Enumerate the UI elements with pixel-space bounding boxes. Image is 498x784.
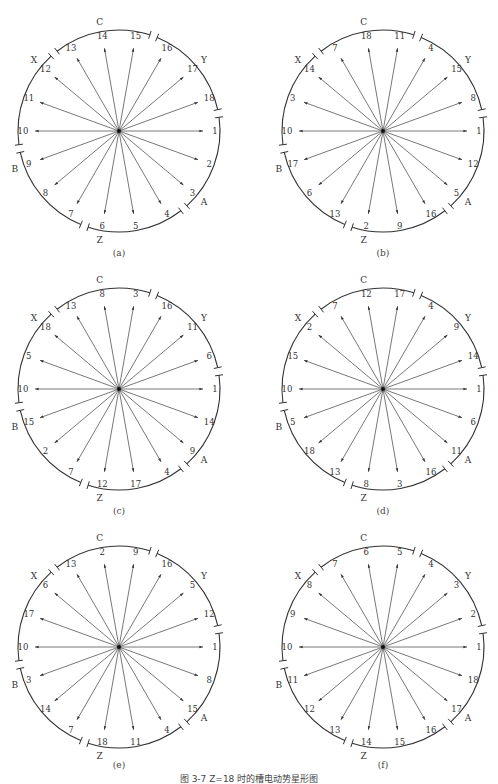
phase-label-c: C: [360, 17, 367, 27]
phasor-arrow: [40, 360, 119, 389]
phase-label-x: X: [31, 55, 38, 65]
phasor-arrow: [55, 131, 119, 185]
slot-number: 11: [394, 31, 405, 41]
slot-number: 8: [100, 289, 105, 299]
slot-number: 13: [66, 559, 77, 569]
belt-break-mark: [178, 208, 183, 214]
slot-number: 1: [476, 642, 481, 652]
slot-number: 10: [18, 642, 29, 652]
phasor-arrow: [55, 335, 119, 389]
slot-number: 17: [130, 479, 141, 489]
phasor-arrow: [319, 647, 383, 701]
slot-number: 13: [66, 301, 77, 311]
slot-number: 2: [307, 322, 312, 332]
slot-number: 8: [470, 93, 475, 103]
slot-number: 15: [451, 64, 462, 74]
phasor-arrow: [319, 593, 383, 647]
phasor-arrow: [304, 389, 383, 418]
phase-label-b: B: [11, 680, 18, 690]
phase-label-z: Z: [361, 751, 367, 761]
phase-label-z: Z: [97, 751, 103, 761]
phase-label-z: Z: [97, 493, 103, 503]
slot-number: 4: [428, 559, 433, 569]
slot-number: 16: [162, 559, 173, 569]
slot-number: 16: [426, 725, 437, 735]
phasor-arrow: [304, 647, 383, 676]
phase-label-a: A: [200, 197, 208, 207]
slot-number: 4: [428, 301, 433, 311]
star-diagram-a: AZBXCY123456789101112131415161718: [11, 17, 223, 246]
belt-break-mark: [442, 724, 447, 730]
phase-label-b: B: [11, 164, 18, 174]
slot-number: 15: [23, 417, 34, 427]
phasor-arrow: [55, 647, 119, 701]
belt-break-mark: [279, 402, 287, 403]
slot-number: 16: [426, 209, 437, 219]
slot-number: 5: [454, 188, 459, 198]
belt-break-mark: [215, 375, 223, 376]
phasor-arrow: [383, 335, 447, 389]
slot-number: 15: [130, 31, 141, 41]
slot-number: 1: [212, 642, 217, 652]
slot-number: 6: [43, 580, 48, 590]
phase-label-y: Y: [200, 571, 208, 581]
phasor-arrow: [383, 360, 462, 389]
phase-label-x: X: [295, 571, 302, 581]
center-point: [117, 387, 121, 391]
slot-number: 1: [476, 384, 481, 394]
phasor-arrow: [383, 77, 447, 131]
slot-number: 2: [43, 446, 48, 456]
subfigure-label-b: (b): [377, 248, 390, 258]
phasor-arrow: [383, 389, 447, 443]
belt-break-mark: [178, 466, 183, 472]
slot-number: 12: [204, 609, 215, 619]
phase-label-x: X: [295, 55, 302, 65]
phase-label-y: Y: [200, 55, 208, 65]
belt-break-mark: [319, 306, 324, 312]
slot-number: 13: [330, 725, 341, 735]
slot-number: 18: [204, 93, 215, 103]
slot-number: 12: [40, 64, 51, 74]
slot-number: 6: [307, 188, 312, 198]
phase-label-a: A: [200, 713, 208, 723]
phasor-arrow: [304, 618, 383, 647]
belt-break-mark: [479, 117, 487, 118]
slot-number: 17: [23, 609, 34, 619]
phase-label-c: C: [360, 275, 367, 285]
belt-break-mark: [442, 466, 447, 472]
slot-number: 2: [100, 547, 105, 557]
phasor-arrow: [40, 131, 119, 160]
slot-number: 10: [18, 126, 29, 136]
slot-number: 11: [23, 93, 34, 103]
slot-number: 11: [130, 737, 141, 747]
slot-number: 7: [332, 559, 337, 569]
phase-label-c: C: [96, 533, 103, 543]
subfigure-label-f: (f): [378, 760, 388, 770]
belt-break-mark: [55, 48, 60, 54]
slot-number: 3: [190, 188, 195, 198]
phasor-arrow: [383, 131, 462, 160]
phase-label-a: A: [464, 455, 472, 465]
phasor-arrow: [119, 618, 198, 647]
subfigure-label-e: (e): [113, 760, 125, 770]
phase-label-y: Y: [200, 313, 208, 323]
phasor-arrow: [383, 389, 462, 418]
phase-label-x: X: [31, 313, 38, 323]
slot-number: 11: [287, 675, 298, 685]
slot-number: 10: [282, 384, 293, 394]
phasor-arrow: [119, 77, 183, 131]
phasor-arrow: [119, 360, 198, 389]
slot-number: 9: [190, 446, 195, 456]
phasor-arrow: [304, 131, 383, 160]
belt-break-mark: [15, 402, 23, 403]
star-diagram-f: AZBXCY118171615141312111098765432: [275, 533, 487, 762]
phase-label-c: C: [360, 533, 367, 543]
slot-number: 2: [470, 609, 475, 619]
slot-number: 17: [451, 704, 462, 714]
star-diagram-e: AZBXCY181541118714310176132916512: [11, 533, 223, 762]
slot-number: 9: [454, 322, 459, 332]
belt-break-mark: [279, 660, 287, 661]
slot-number: 9: [26, 159, 31, 169]
slot-number: 5: [397, 547, 402, 557]
slot-number: 11: [451, 446, 462, 456]
